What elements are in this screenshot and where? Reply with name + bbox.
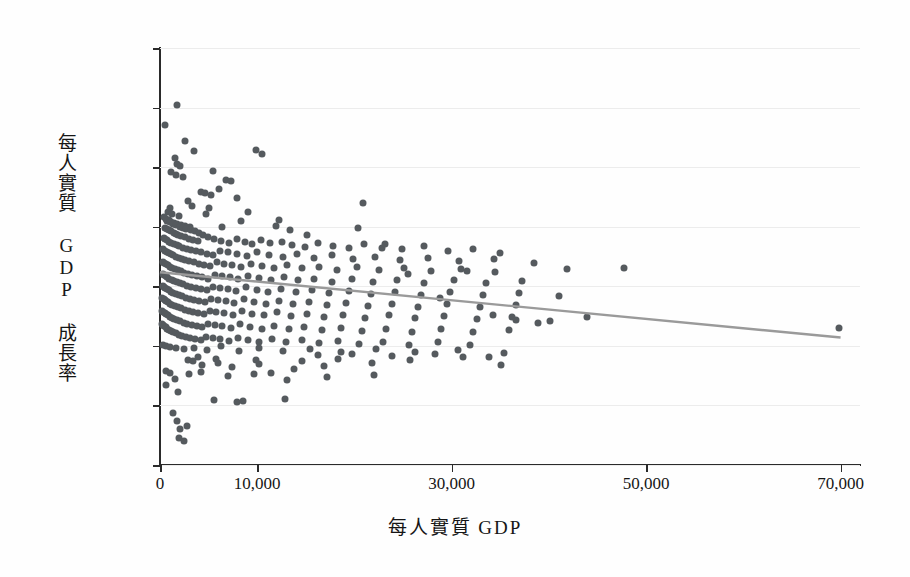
y-axis-title: 每人實質 GDP 成長率 [46, 118, 86, 398]
x-tick-mark [257, 465, 259, 472]
x-tick-label: 30,000 [392, 474, 512, 494]
trendline-group [160, 48, 860, 465]
x-tick-label: 10,000 [197, 474, 317, 494]
x-tick-mark [452, 465, 454, 472]
y-tick-mark [153, 108, 160, 110]
x-tick-mark [646, 465, 648, 472]
x-tick-label: 70,000 [781, 474, 901, 494]
x-tick-mark [160, 465, 162, 472]
y-tick-mark [153, 48, 160, 50]
x-axis-title: 每人實質 GDP [0, 512, 910, 539]
x-tick-mark [841, 465, 843, 472]
y-tick-mark [153, 465, 160, 467]
y-tick-mark [153, 227, 160, 229]
x-tick-label: 50,000 [586, 474, 706, 494]
y-tick-mark [153, 405, 160, 407]
gridline [160, 465, 860, 466]
plot-area: 0.080.060.040.02-0.00-0.02-0.04-0.06 010… [160, 48, 860, 465]
scatter-plot-figure: 每人實質 GDP 成長率 0.080.060.040.02-0.00-0.02-… [0, 0, 910, 577]
y-tick-mark [153, 167, 160, 169]
y-tick-mark [153, 346, 160, 348]
regression-trendline [160, 272, 841, 337]
